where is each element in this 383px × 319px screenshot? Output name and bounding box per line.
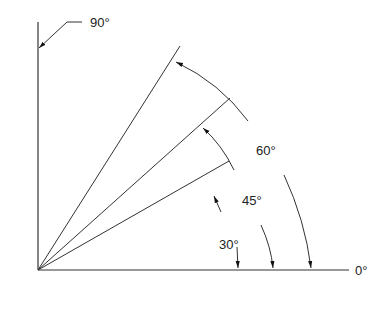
ray-45 [38, 98, 230, 270]
angle-diagram: 90° 60° 45° 30° 0° [0, 0, 383, 319]
label-45: 45° [242, 193, 262, 208]
arc-60-lower [284, 175, 311, 268]
ray-30 [38, 161, 229, 270]
leader-90 [39, 22, 82, 48]
label-30: 30° [219, 237, 239, 252]
label-0: 0° [355, 263, 367, 278]
label-90: 90° [90, 15, 110, 30]
ray-60 [38, 46, 180, 270]
arc-60-upper [176, 62, 248, 121]
arc-45-lower [261, 225, 273, 268]
arc-45-upper [203, 128, 234, 170]
label-60: 60° [256, 143, 276, 158]
arrow-30-upper [214, 196, 221, 212]
